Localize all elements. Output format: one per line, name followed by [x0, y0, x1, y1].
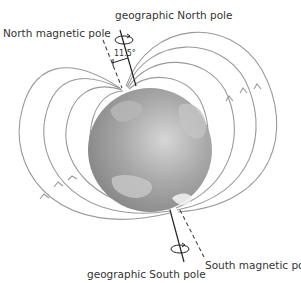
earth-globe: [88, 88, 212, 212]
label-south-magnetic-pole: South magnetic pole: [205, 259, 301, 271]
field-arrows-left: [40, 176, 77, 199]
label-geographic-north-pole: geographic North pole: [115, 9, 232, 21]
label-north-magnetic-pole: North magnetic pole: [3, 27, 111, 39]
earth-magnetic-field-diagram: geographic North pole North magnetic pol…: [0, 0, 301, 283]
angle-indicator: [112, 58, 128, 66]
field-arrows-right: [226, 84, 261, 101]
diagram-canvas: [0, 0, 301, 283]
label-geographic-south-pole: geographic South pole: [87, 268, 206, 280]
label-angle: 11.5°: [114, 49, 136, 58]
